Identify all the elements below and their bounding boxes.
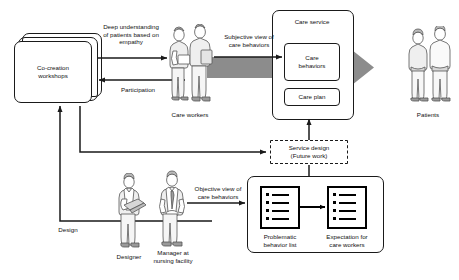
label-manager: Manager at nursing facility xyxy=(142,249,204,264)
manager-figure xyxy=(152,170,192,248)
label-patients: Patients xyxy=(398,111,458,119)
list-bullet xyxy=(333,217,336,220)
node-care-behaviors[interactable]: Care behaviors xyxy=(284,43,340,81)
label-design: Design xyxy=(48,226,88,234)
label-care-workers: Care workers xyxy=(155,111,225,119)
list-line xyxy=(339,218,356,220)
list-bullet xyxy=(333,193,336,196)
list-line xyxy=(339,210,356,212)
list-bullet xyxy=(333,201,336,204)
list-line xyxy=(339,202,356,204)
process-diagram: Co-creation workshops Care service Care … xyxy=(0,0,459,280)
node-care-service-title: Care service xyxy=(272,18,352,26)
designer-figure xyxy=(110,173,150,249)
list-line xyxy=(339,194,356,196)
label-deep-understanding: Deep understanding of patients based on … xyxy=(88,23,174,46)
list-line xyxy=(272,210,289,212)
expectation-list-label: Expectation for care workers xyxy=(317,233,377,248)
list-line xyxy=(272,218,289,220)
node-care-plan[interactable]: Care plan xyxy=(284,88,340,106)
list-line xyxy=(272,194,289,196)
list-bullet xyxy=(266,217,269,220)
expectation-list-box[interactable] xyxy=(327,186,367,229)
care-workers-figures xyxy=(164,24,216,104)
label-subjective-view: Subjective view of care behaviors xyxy=(208,33,290,48)
problematic-behavior-list-box[interactable] xyxy=(260,186,300,229)
list-bullet xyxy=(266,193,269,196)
node-service-design[interactable]: Service design (Future work) xyxy=(270,140,348,164)
list-bullet xyxy=(266,209,269,212)
node-co-creation-workshops[interactable]: Co-creation workshops xyxy=(14,41,92,103)
list-bullet xyxy=(333,209,336,212)
problematic-behavior-list-label: Problematic behavior list xyxy=(250,233,310,248)
list-bullet xyxy=(266,201,269,204)
list-line xyxy=(272,202,289,204)
patients-figures xyxy=(404,26,454,106)
